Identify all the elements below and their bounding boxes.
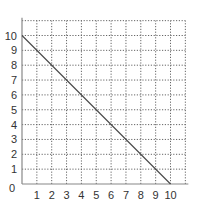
x-axis-tick-labels: 12345678910 xyxy=(34,189,177,201)
y-axis-tick-labels: 012345678910 xyxy=(5,30,17,195)
x-tick-label: 3 xyxy=(63,189,69,201)
x-tick-label: 7 xyxy=(123,189,129,201)
y-tick-label: 4 xyxy=(11,119,17,131)
x-tick-label: 2 xyxy=(49,189,55,201)
grid-lines xyxy=(22,21,185,184)
x-tick-label: 5 xyxy=(93,189,99,201)
x-tick-label: 10 xyxy=(164,189,176,201)
x-tick-label: 8 xyxy=(138,189,144,201)
y-tick-label: 3 xyxy=(11,133,17,145)
axes xyxy=(22,18,188,184)
line-chart: 12345678910 012345678910 xyxy=(0,0,206,202)
x-tick-label: 6 xyxy=(108,189,114,201)
y-tick-label: 6 xyxy=(11,89,17,101)
y-tick-label: 8 xyxy=(11,59,17,71)
x-tick-label: 1 xyxy=(34,189,40,201)
y-tick-label: 2 xyxy=(11,148,17,160)
y-tick-label: 0 xyxy=(9,182,15,194)
x-tick-label: 4 xyxy=(78,189,84,201)
y-tick-label: 5 xyxy=(11,104,17,116)
y-tick-label: 7 xyxy=(11,74,17,86)
y-tick-label: 10 xyxy=(5,30,17,42)
y-tick-label: 9 xyxy=(11,44,17,56)
x-tick-label: 9 xyxy=(153,189,159,201)
y-tick-label: 1 xyxy=(11,163,17,175)
